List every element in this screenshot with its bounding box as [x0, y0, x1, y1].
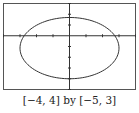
window-caption: [−4, 4] by [−5, 3]: [0, 94, 139, 106]
axes: [4, 4, 136, 90]
graph-window: [0, 0, 139, 92]
